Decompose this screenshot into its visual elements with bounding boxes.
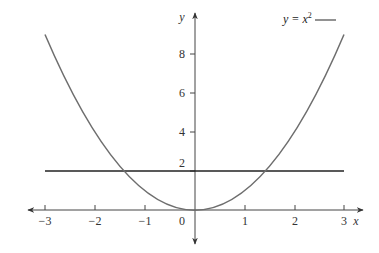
x-tick-label: 3 <box>341 214 347 228</box>
x-tick-label: −1 <box>139 214 152 228</box>
y-tick-label: 4 <box>179 125 185 139</box>
x-tick-label: −3 <box>39 214 52 228</box>
svg-text:y = x2: y = x2 <box>282 11 312 26</box>
x-tick-label: 1 <box>242 214 248 228</box>
y-tick-label: 6 <box>179 86 185 100</box>
y-ticks <box>190 54 195 171</box>
y-tick-label: 8 <box>179 47 185 61</box>
y-tick-label: 2 <box>179 156 185 170</box>
chart-canvas: −3 −2 −1 0 1 2 3 2 4 6 8 x y y = x2 <box>0 0 379 253</box>
x-tick-label: 2 <box>292 214 298 228</box>
y-axis-label: y <box>178 10 185 24</box>
x-tick-label: −2 <box>89 214 102 228</box>
legend-label: y = x <box>282 12 308 26</box>
x-tick-label: 0 <box>179 214 185 228</box>
legend: y = x2 <box>282 11 336 26</box>
x-axis-label: x <box>352 214 359 228</box>
legend-label-superscript: 2 <box>308 11 312 20</box>
